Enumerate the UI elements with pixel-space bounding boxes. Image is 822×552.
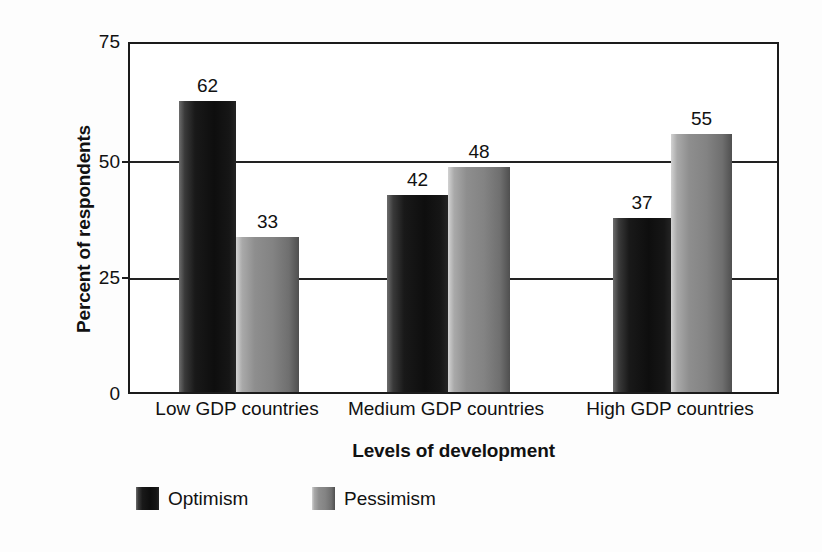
bar-value-label: 37 — [631, 192, 652, 214]
y-tick-text: 75 — [99, 31, 120, 52]
y-tick-text: 25 — [99, 267, 120, 288]
bar-low-gdp-optimism[interactable]: 62 — [179, 101, 236, 392]
bar-high-gdp-pessimism[interactable]: 55 — [671, 134, 732, 392]
x-axis-category-group: Low GDP countries Medium GDP countries H… — [128, 398, 779, 428]
bar-value-label: 48 — [468, 141, 489, 163]
bar-value-label: 55 — [691, 108, 712, 130]
bar-medium-gdp-pessimism[interactable]: 48 — [448, 167, 510, 392]
bar-chart-figure: Percent of respondents 75 50 25 0 62 33 … — [0, 0, 822, 552]
y-tick-text: 50 — [99, 151, 120, 172]
bar-value-label: 33 — [257, 211, 278, 233]
legend-swatch-optimism-icon — [136, 487, 159, 510]
bar-medium-gdp-optimism[interactable]: 42 — [387, 195, 448, 392]
y-tick-label-75: 75 — [60, 31, 120, 53]
legend-item-optimism[interactable]: Optimism — [136, 487, 248, 510]
x-category-label-medium-gdp: Medium GDP countries — [348, 398, 544, 420]
x-axis-title: Levels of development — [128, 440, 779, 462]
y-tick-text: 0 — [109, 383, 120, 404]
bar-high-gdp-optimism[interactable]: 37 — [613, 218, 671, 392]
y-tick-label-50: 50 — [60, 151, 120, 173]
y-axis-tick-group: 75 50 25 0 — [50, 42, 120, 394]
y-tick-label-0: 0 — [60, 383, 120, 405]
plot-area: 62 33 42 48 37 55 — [128, 42, 779, 394]
x-category-label-low-gdp: Low GDP countries — [155, 398, 318, 420]
legend-swatch-pessimism-icon — [312, 487, 335, 510]
chart-legend: Optimism Pessimism — [128, 487, 779, 519]
bar-value-label: 62 — [197, 75, 218, 97]
x-category-label-high-gdp: High GDP countries — [586, 398, 754, 420]
bar-value-label: 42 — [407, 169, 428, 191]
y-tick-label-25: 25 — [60, 267, 120, 289]
legend-item-pessimism[interactable]: Pessimism — [312, 487, 436, 510]
bar-low-gdp-pessimism[interactable]: 33 — [236, 237, 299, 392]
legend-label-optimism: Optimism — [168, 488, 248, 510]
legend-label-pessimism: Pessimism — [344, 488, 436, 510]
